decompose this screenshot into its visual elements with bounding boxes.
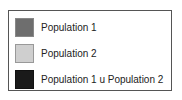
legend-item-population-1: Population 1 [15,17,97,37]
swatch-population-1 [15,18,34,37]
legend-label: Population 1 [41,22,97,33]
legend-box: Population 1 Population 2 Population 1 u… [8,10,172,91]
legend-item-union: Population 1 u Population 2 [15,69,163,89]
legend-item-population-2: Population 2 [15,43,97,63]
swatch-union [15,70,34,89]
legend-label: Population 1 u Population 2 [41,74,163,85]
legend-label: Population 2 [41,48,97,59]
swatch-population-2 [15,44,34,63]
